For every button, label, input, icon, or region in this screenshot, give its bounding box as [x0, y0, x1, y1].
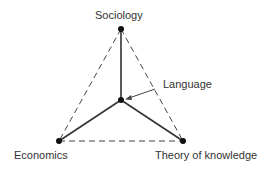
edge-language-economics [59, 100, 121, 141]
label-sociology: Sociology [95, 10, 143, 21]
node-language [118, 97, 124, 103]
label-economics: Economics [14, 150, 68, 161]
node-sociology [118, 26, 124, 32]
label-theory-of-knowledge: Theory of knowledge [155, 150, 257, 161]
diagram-canvas [0, 0, 274, 171]
node-theory-of-knowledge [180, 138, 186, 144]
edge-sociology-economics [59, 29, 121, 141]
edge-language-theory [121, 100, 183, 141]
label-language: Language [163, 79, 212, 90]
language-pointer [125, 89, 155, 100]
arrow-head-icon [125, 95, 132, 100]
node-economics [56, 138, 62, 144]
